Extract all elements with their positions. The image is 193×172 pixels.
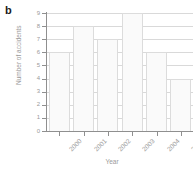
y-tick: [42, 92, 46, 93]
y-tick-label: 4: [28, 75, 40, 81]
y-tick: [42, 39, 46, 40]
y-tick-label-wrap: 8: [28, 23, 40, 30]
x-axis-title: Year: [47, 159, 177, 166]
panel-label: b: [5, 5, 12, 16]
x-tick-label: 2004: [166, 138, 181, 153]
bar: [97, 39, 118, 131]
y-tick: [42, 26, 46, 27]
x-tick: [108, 132, 109, 136]
x-tick-label: 2002: [117, 138, 132, 153]
y-tick-label-wrap: 1: [28, 114, 40, 121]
y-tick-label: 9: [28, 10, 40, 16]
y-tick-label: 5: [28, 62, 40, 68]
y-tick: [42, 105, 46, 106]
bar: [73, 26, 94, 131]
y-tick-label-wrap: 2: [28, 101, 40, 108]
bar: [170, 79, 191, 131]
y-tick-label: 8: [28, 23, 40, 29]
x-tick: [157, 132, 158, 136]
x-axis-line: [46, 131, 193, 132]
x-tick-label: 2003: [141, 138, 156, 153]
y-tick: [42, 13, 46, 14]
y-tick-label-wrap: 3: [28, 88, 40, 95]
y-tick-label-wrap: 0: [28, 128, 40, 135]
y-axis-title: Number of accidents: [16, 20, 23, 90]
bar-series: [47, 13, 193, 131]
y-tick-label-wrap: 5: [28, 62, 40, 69]
y-tick-label-wrap: 4: [28, 75, 40, 82]
y-tick-label: 1: [28, 114, 40, 120]
y-tick: [42, 131, 46, 132]
x-tick-label: 2005: [190, 138, 193, 153]
x-tick-label: 2000: [68, 138, 83, 153]
y-tick-label: 3: [28, 88, 40, 94]
bar: [122, 13, 143, 131]
bar: [146, 52, 167, 131]
y-tick: [42, 65, 46, 66]
y-tick-label: 7: [28, 36, 40, 42]
y-tick-label-wrap: 9: [28, 10, 40, 17]
y-tick-label-wrap: 7: [28, 36, 40, 43]
y-tick-label: 2: [28, 101, 40, 107]
figure-panel-b: b 0123456789 200020012002200320042005 Nu…: [0, 0, 193, 172]
x-tick-label: 2001: [93, 138, 108, 153]
y-tick: [42, 118, 46, 119]
x-tick: [132, 132, 133, 136]
x-tick: [84, 132, 85, 136]
y-tick-label: 0: [28, 128, 40, 134]
y-tick: [42, 52, 46, 53]
y-tick: [42, 79, 46, 80]
y-tick-label: 6: [28, 49, 40, 55]
x-tick: [181, 132, 182, 136]
plot-area: [47, 13, 193, 131]
bar: [49, 52, 70, 131]
y-tick-label-wrap: 6: [28, 49, 40, 56]
x-tick: [59, 132, 60, 136]
